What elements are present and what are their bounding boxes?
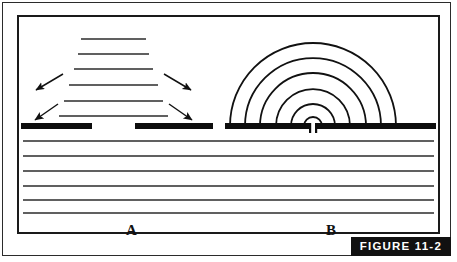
surface-bar-right bbox=[316, 123, 436, 129]
arc-6 bbox=[230, 43, 396, 126]
panel-a-upper-beds bbox=[59, 39, 168, 116]
arrow-upper-left bbox=[36, 74, 63, 90]
panel-a-surface-layer bbox=[21, 123, 213, 129]
panel-label-a: A bbox=[126, 222, 137, 239]
surface-bar-left bbox=[225, 123, 310, 129]
arc-3 bbox=[276, 89, 350, 126]
arrow-lower-left bbox=[35, 104, 58, 120]
panel-label-b: B bbox=[326, 222, 337, 239]
surface-bar-right bbox=[135, 123, 213, 129]
arc-2 bbox=[291, 104, 335, 126]
arrow-upper-right bbox=[164, 74, 191, 90]
vent-channel-wall-left bbox=[309, 123, 311, 133]
vent-channel-wall-right bbox=[315, 123, 317, 133]
figure-canvas: A B FIGURE 11-2 bbox=[0, 0, 457, 262]
panel-a-arrows bbox=[35, 74, 192, 120]
arc-5 bbox=[245, 58, 381, 126]
figure-inner-border: A B bbox=[17, 15, 440, 234]
panel-b-arcs bbox=[230, 43, 396, 126]
figure-number-label: FIGURE 11-2 bbox=[360, 240, 442, 253]
panel-b-surface-layer bbox=[225, 123, 436, 133]
arrow-lower-right bbox=[169, 104, 192, 120]
cross-section-drawing bbox=[19, 17, 438, 232]
surface-bar-left bbox=[21, 123, 92, 129]
figure-number-tag: FIGURE 11-2 bbox=[351, 237, 451, 256]
lower-beds bbox=[23, 141, 434, 213]
